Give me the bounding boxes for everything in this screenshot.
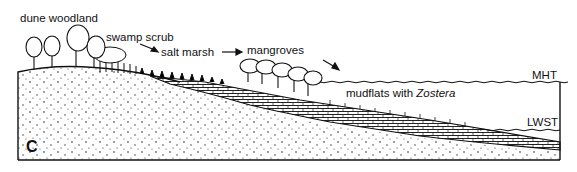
dune-woodland-trees: [26, 25, 105, 70]
mht-water-line: [312, 81, 568, 83]
label-swamp-scrub: swamp scrub: [106, 32, 174, 44]
label-mudflats: mudflats with Zostera: [346, 88, 455, 100]
label-lwst: LWST: [527, 117, 558, 129]
panel-label: C: [26, 138, 38, 156]
label-salt-marsh: salt marsh: [161, 47, 214, 59]
label-zostera: Zostera: [416, 87, 455, 99]
label-mangroves: mangroves: [247, 45, 304, 57]
coastal-zonation-diagram: [0, 0, 577, 172]
label-mht: MHT: [532, 70, 557, 82]
label-dune-woodland: dune woodland: [20, 13, 98, 25]
label-mudflats-prefix: mudflats with: [346, 87, 416, 99]
